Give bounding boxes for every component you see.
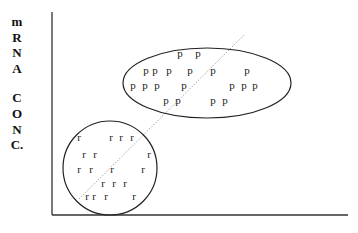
p-point-label: p: [142, 79, 148, 91]
r-point-label: r: [82, 148, 86, 160]
r-point-label: r: [92, 190, 96, 202]
diagonal-dotted-line: [79, 35, 244, 199]
p-point-label: p: [166, 64, 172, 76]
p-point-label: p: [210, 64, 216, 76]
r-point-label: r: [141, 163, 145, 175]
p-point-label: p: [130, 79, 136, 91]
p-point-label: p: [163, 94, 169, 106]
p-cluster-ellipse: [123, 48, 291, 118]
p-points: ppppppppppppppppppp: [130, 47, 258, 106]
r-point-label: r: [77, 131, 81, 143]
p-point-label: p: [181, 79, 187, 91]
r-point-label: r: [123, 177, 127, 189]
r-point-label: r: [112, 177, 116, 189]
r-point-label: r: [119, 131, 123, 143]
p-point-label: p: [177, 47, 183, 59]
p-point-label: p: [143, 64, 149, 76]
r-point-label: r: [85, 190, 89, 202]
p-point-label: p: [244, 64, 250, 76]
p-point-label: p: [154, 79, 160, 91]
r-point-label: r: [147, 148, 151, 160]
r-point-label: r: [109, 131, 113, 143]
p-point-label: p: [152, 64, 158, 76]
scatter-diagram: ppppppppppppppppppp rrrrrrrrrrrrrrrrrr: [0, 0, 358, 233]
p-point-label: p: [210, 94, 216, 106]
r-point-label: r: [130, 131, 134, 143]
r-point-label: r: [89, 163, 93, 175]
r-point-label: r: [132, 190, 136, 202]
p-point-label: p: [187, 64, 193, 76]
r-point-label: r: [104, 190, 108, 202]
p-point-label: p: [241, 79, 247, 91]
p-point-label: p: [229, 79, 235, 91]
r-point-label: r: [110, 163, 114, 175]
p-point-label: p: [222, 94, 228, 106]
p-point-label: p: [195, 47, 201, 59]
p-point-label: p: [252, 79, 258, 91]
r-point-label: r: [101, 177, 105, 189]
p-point-label: p: [175, 94, 181, 106]
r-points: rrrrrrrrrrrrrrrrrr: [77, 131, 151, 202]
r-point-label: r: [77, 163, 81, 175]
r-point-label: r: [93, 148, 97, 160]
